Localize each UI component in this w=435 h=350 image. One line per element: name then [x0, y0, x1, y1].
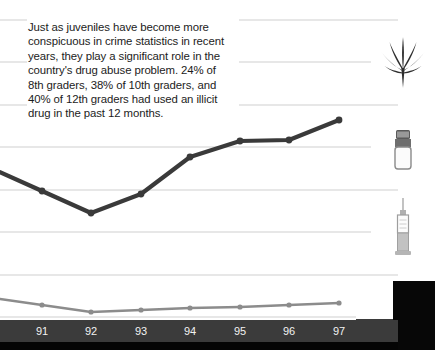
data-point-0-96[interactable]	[286, 137, 293, 144]
black-side-panel	[393, 281, 435, 350]
data-point-1-96[interactable]	[286, 302, 291, 307]
caption-block: Just as juveniles have become more consp…	[27, 17, 239, 125]
series-line-0	[0, 120, 339, 213]
data-point-0-92[interactable]	[88, 210, 95, 217]
data-point-0-97[interactable]	[336, 117, 343, 124]
data-point-0-93[interactable]	[138, 191, 145, 198]
cannabis-leaf-icon	[371, 22, 435, 98]
x-axis-tick-92: 92	[85, 320, 97, 342]
data-point-0-95[interactable]	[237, 138, 244, 145]
data-point-1-95[interactable]	[237, 304, 242, 309]
x-axis-underline	[0, 342, 398, 350]
x-axis-tick-96: 96	[283, 320, 295, 342]
data-point-0-94[interactable]	[187, 154, 194, 161]
pill-bottle-glyph	[391, 128, 415, 174]
x-axis-band: 91929394959697	[0, 320, 398, 342]
syringe-glyph	[392, 197, 414, 259]
caption-text: Just as juveniles have become more consp…	[28, 20, 233, 121]
chart-infographic: Just as juveniles have become more consp…	[0, 0, 435, 350]
data-point-1-94[interactable]	[187, 305, 192, 310]
data-point-1-92[interactable]	[88, 309, 93, 314]
x-axis-tick-91: 91	[36, 320, 48, 342]
series-group	[0, 117, 342, 315]
syringe-icon	[371, 192, 435, 264]
data-point-1-91[interactable]	[39, 302, 44, 307]
x-axis-tick-97: 97	[333, 320, 345, 342]
x-axis-tick-93: 93	[135, 320, 147, 342]
x-axis-tick-95: 95	[234, 320, 246, 342]
x-axis-tick-94: 94	[184, 320, 196, 342]
data-point-1-97[interactable]	[336, 300, 341, 305]
data-point-1-93[interactable]	[138, 307, 143, 312]
cannabis-leaf-glyph	[380, 30, 426, 90]
data-point-0-91[interactable]	[39, 188, 46, 195]
pill-bottle-icon	[371, 124, 435, 178]
panel-white-notch	[356, 281, 393, 319]
